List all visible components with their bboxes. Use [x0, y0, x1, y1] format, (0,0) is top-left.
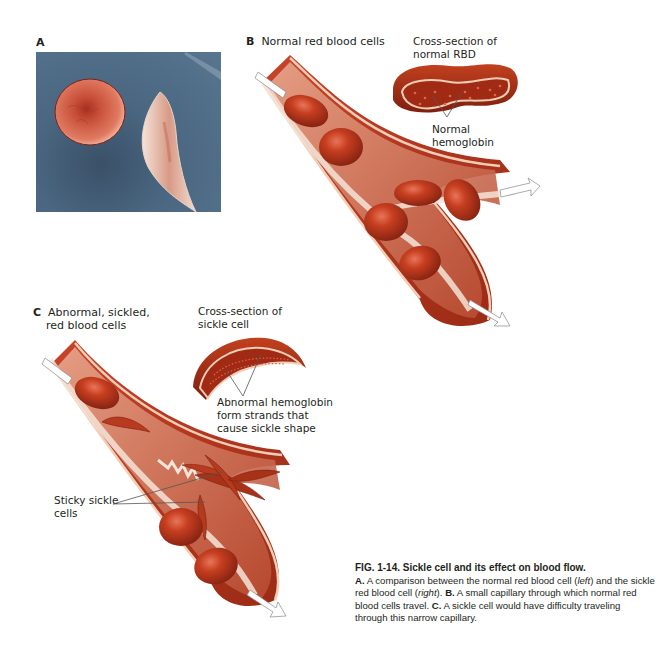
label-line: cells — [54, 507, 118, 520]
caption-body: A. A comparison between the normal red b… — [355, 575, 655, 625]
flow-out-arrow-icon — [247, 590, 286, 617]
label-line: normal RBD — [413, 48, 497, 61]
rbc-cell — [279, 89, 332, 133]
sickle-capillary — [42, 340, 290, 617]
leader-line — [432, 92, 462, 117]
micrograph-svg — [36, 52, 221, 212]
label-line: cause sickle shape — [217, 422, 333, 435]
rbc-cell — [70, 371, 123, 415]
label-line: Normal — [432, 123, 494, 136]
rbc-cell — [190, 543, 242, 589]
normal-capillary — [255, 55, 540, 326]
flow-out-arrow-icon — [468, 300, 510, 326]
rbc-cell — [395, 241, 444, 285]
abnormal-hemoglobin-label: Abnormal hemoglobin form strands that ca… — [217, 396, 333, 435]
rbc-cell — [319, 128, 363, 166]
sickle-cross-section-label: Cross-section of sickle cell — [198, 305, 282, 331]
micrograph-streak — [184, 52, 221, 80]
label-line: Cross-section of — [198, 305, 282, 318]
caption-c-letter: C. — [432, 600, 442, 611]
panel-b-title-text: Normal red blood cells — [261, 35, 384, 48]
normal-hemoglobin-label: Normal hemoglobin — [432, 123, 494, 149]
figure-caption: FIG. 1-14. Sickle cell and its effect on… — [355, 562, 655, 625]
label-line: Cross-section of — [413, 35, 497, 48]
micrograph-rbc-comparison — [36, 52, 221, 212]
caption-italic: right — [418, 587, 437, 598]
panel-a-letter: A — [36, 36, 45, 49]
sickle-cell — [228, 470, 280, 481]
vessel-wall-b — [262, 55, 510, 326]
leader-line — [113, 472, 222, 504]
normal-rbc-cross-section — [393, 64, 518, 117]
rbc-cell — [436, 172, 487, 227]
rbc-cell — [394, 180, 442, 206]
flow-in-arrow-icon — [255, 72, 286, 98]
caption-italic: left — [577, 575, 590, 586]
sticky-sickle-cells-label: Sticky sickle cells — [54, 494, 118, 520]
flow-in-arrow-icon — [42, 358, 72, 384]
sickle-cell — [182, 464, 240, 485]
panel-b-title: B Normal red blood cells — [246, 35, 385, 48]
caption-title: FIG. 1-14. Sickle cell and its effect on… — [355, 562, 655, 575]
sickle-cell — [195, 474, 265, 500]
vessel-wall-c — [50, 340, 290, 606]
label-line: form strands that — [217, 409, 333, 422]
label-line: hemoglobin — [432, 136, 494, 149]
panel-c-title-line: Abnormal, sickled, — [48, 306, 150, 319]
rbc-cell — [364, 203, 408, 241]
sickle-cell — [102, 417, 150, 432]
sickle-cell-cross-section — [193, 338, 306, 400]
caption-b-letter: B. — [445, 587, 455, 598]
panel-c-letter: C — [33, 306, 41, 319]
label-line: Abnormal hemoglobin — [217, 396, 333, 409]
flow-out-arrow-icon — [500, 178, 540, 197]
label-line: Sticky sickle — [54, 494, 118, 507]
panel-c-title: C Abnormal, sickled, red blood cells — [33, 306, 150, 332]
caption-text: A comparison between the normal red bloo… — [365, 575, 578, 586]
caption-text: ). — [437, 587, 446, 598]
sickle-cell — [205, 455, 240, 500]
panel-c-title-line: red blood cells — [33, 319, 150, 332]
panel-b-letter: B — [246, 35, 254, 48]
leader-line — [226, 354, 261, 396]
normal-cross-section-label: Cross-section of normal RBD — [413, 35, 497, 61]
label-line: sickle cell — [198, 318, 282, 331]
vessel-lumen-b — [268, 62, 500, 318]
sickle-cell — [198, 495, 206, 540]
rbc-cell — [159, 508, 203, 546]
caption-a-letter: A. — [355, 575, 365, 586]
vessel-lumen-c — [56, 347, 280, 598]
